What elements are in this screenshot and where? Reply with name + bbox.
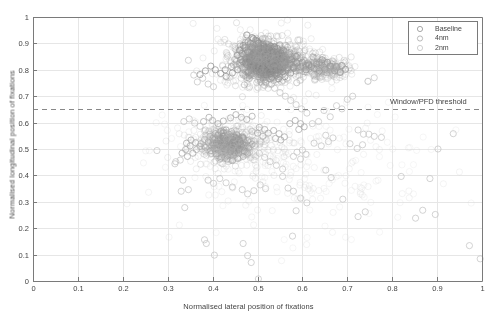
y-axis-label: Normalised longitudinal position of fixa… [8, 45, 17, 245]
plot-canvas [0, 0, 497, 318]
scatter-plot-figure: Normalised lateral position of fixations… [0, 0, 497, 318]
x-axis-label: Normalised lateral position of fixations [0, 302, 497, 311]
